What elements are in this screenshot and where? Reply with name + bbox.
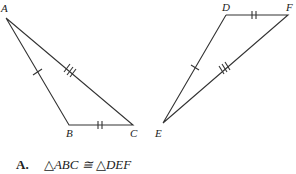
vertex-label-e: E: [155, 128, 162, 139]
answer-option-letter: A.: [16, 157, 29, 172]
vertex-label-f: F: [286, 2, 293, 13]
triangles-diagram: [0, 0, 296, 174]
congruence-statement: △ABC ≅ △DEF: [44, 157, 131, 172]
tick-de: [191, 65, 199, 70]
geometry-figure: A B C D E F: [0, 0, 296, 174]
triangle-abc: [6, 18, 133, 129]
vertex-label-a: A: [1, 3, 8, 14]
vertex-label-b: B: [66, 128, 73, 139]
answer-choice: A. △ABC ≅ △DEF: [16, 157, 131, 173]
triangle-def: [163, 11, 288, 123]
vertex-label-d: D: [222, 2, 230, 13]
tick-ab: [33, 69, 42, 75]
vertex-label-c: C: [130, 128, 137, 139]
